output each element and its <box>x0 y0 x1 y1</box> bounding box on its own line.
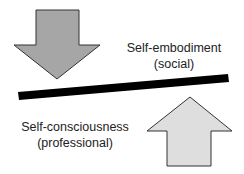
bottom-label: Self-consciousness (professional) <box>14 119 136 151</box>
top-label-line1: Self-embodiment <box>112 40 236 56</box>
bottom-label-line2: (professional) <box>14 135 136 151</box>
down-arrow-icon <box>14 10 100 79</box>
balance-bar <box>18 74 229 100</box>
top-label-line2: (social) <box>112 56 236 72</box>
top-label: Self-embodiment (social) <box>112 40 236 72</box>
bottom-label-line1: Self-consciousness <box>14 119 136 135</box>
up-arrow-icon <box>147 97 232 166</box>
